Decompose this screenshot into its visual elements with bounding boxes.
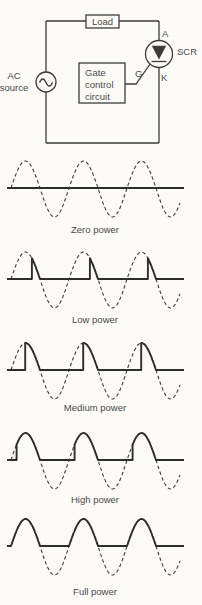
ac-source-label-line2: source	[0, 82, 28, 93]
output-waveform-solid	[7, 433, 184, 460]
waveform-medium-power	[0, 338, 202, 404]
scr-label: SCR	[177, 46, 197, 57]
gate-box-label-line2: control	[85, 79, 114, 90]
waveform-label-zero-power: Zero power	[0, 224, 190, 235]
ac-source-label-line1: AC	[7, 70, 20, 81]
cathode-terminal-label: K	[161, 72, 168, 83]
waveform-label-low-power: Low power	[0, 314, 190, 325]
ac-input-sine-dashed	[11, 519, 180, 575]
gate-box-label-line3: circuit	[85, 91, 110, 102]
output-waveform-solid	[7, 258, 184, 279]
output-waveform-solid	[7, 519, 184, 546]
scr-power-control-figure: Load AC source Gate control circuit A G …	[0, 0, 202, 605]
waveform-low-power	[0, 247, 202, 313]
waveform-label-full-power: Full power	[0, 586, 190, 597]
ac-input-sine-dashed	[11, 343, 180, 399]
circuit-diagram: Load AC source Gate control circuit A G …	[0, 0, 202, 152]
ac-input-sine-dashed	[11, 252, 180, 308]
gate-terminal-label: G	[135, 68, 142, 79]
waveform-full-power	[0, 514, 202, 580]
output-waveform-solid	[7, 343, 184, 370]
waveform-label-high-power: High power	[0, 494, 190, 505]
gate-box-label-line1: Gate	[85, 67, 106, 78]
ac-input-sine-dashed	[11, 161, 180, 217]
waveform-zero-power	[0, 156, 202, 222]
waveform-high-power	[0, 428, 202, 494]
load-label: Load	[92, 16, 113, 27]
waveform-label-medium-power: Medium power	[0, 402, 190, 413]
anode-terminal-label: A	[162, 28, 169, 39]
ac-input-sine-dashed	[11, 433, 180, 489]
